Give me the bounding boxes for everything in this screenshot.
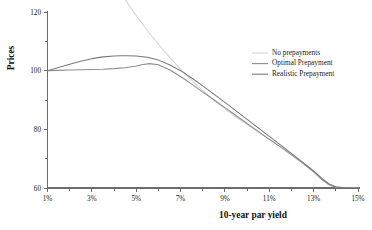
legend-label-1: Optimal Prepayment: [272, 58, 333, 67]
x-tick-label: 15%: [351, 195, 364, 203]
x-tick-label: 1%: [43, 195, 53, 203]
x-tick-label: 13%: [307, 195, 320, 203]
y-tick-label: 100: [30, 67, 41, 75]
legend-label-0: No prepayments: [272, 48, 320, 57]
y-tick-label: 80: [34, 126, 42, 134]
y-axis-title: Prices: [6, 45, 16, 70]
chart-legend: No prepaymentsOptimal PrepaymentRealisti…: [252, 48, 334, 78]
y-axis-tick-labels: 1201008060: [30, 9, 41, 193]
x-tick-label: 9%: [220, 195, 230, 203]
series-line-0: [48, 0, 359, 188]
y-tick-label: 60: [34, 185, 42, 193]
series-lines: [48, 0, 359, 188]
x-tick-label: 3%: [87, 195, 97, 203]
x-axis-group: 1%3%5%7%9%11%13%15%: [43, 188, 365, 203]
x-axis-ticks: [48, 188, 359, 192]
y-axis-group: 1201008060: [30, 9, 47, 193]
x-tick-label: 5%: [131, 195, 141, 203]
x-axis-title: 10-year par yield: [219, 210, 288, 220]
y-axis-ticks: [44, 12, 48, 188]
x-axis-tick-labels: 1%3%5%7%9%11%13%15%: [43, 195, 365, 203]
chart-container: 1201008060 1%3%5%7%9%11%13%15% No prepay…: [0, 0, 372, 230]
x-tick-label: 11%: [263, 195, 276, 203]
legend-label-2: Realistic Prepayment: [272, 69, 334, 78]
line-chart: 1201008060 1%3%5%7%9%11%13%15% No prepay…: [0, 0, 372, 230]
x-tick-label: 7%: [176, 195, 186, 203]
y-tick-label: 120: [30, 9, 41, 17]
